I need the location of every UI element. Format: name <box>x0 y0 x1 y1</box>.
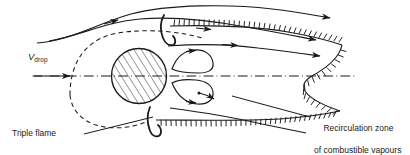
velocity-subscript: drop <box>34 56 47 63</box>
recirculation-vortices <box>172 50 214 104</box>
leader-recirculation <box>232 96 310 117</box>
figure-canvas: Vdrop Triple flame Recirculation zone of… <box>0 0 410 155</box>
recirculation-zone-label: Recirculation zone of combustible vapour… <box>314 112 401 155</box>
recirculation-label-line1: Recirculation zone <box>323 123 393 133</box>
triple-flame-label: Triple flame <box>12 128 56 139</box>
streamline-direction-arrows <box>104 20 238 46</box>
recirculation-label-line2: of combustible vapours <box>314 145 401 155</box>
gas-flow-streamlines <box>37 6 330 133</box>
flame-front-closure <box>303 45 346 114</box>
fuel-droplet <box>112 49 167 104</box>
leader-triple-flame <box>84 117 153 134</box>
flame-front-lower <box>148 107 340 136</box>
velocity-label: Vdrop <box>18 40 48 76</box>
